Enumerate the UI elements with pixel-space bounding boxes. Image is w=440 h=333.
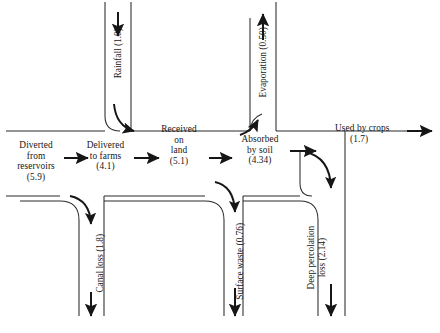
- canal-loss-outer-wall: [20, 201, 79, 316]
- node-label-absorbed-by-soil: Absorbed by soil (4.34): [232, 134, 288, 166]
- node-label-deep-percolation-loss: Deep percolation loss (2.14): [306, 202, 327, 314]
- absorbed-to-percolation-wall: [300, 150, 312, 196]
- canal-loss-join-arrow: [70, 196, 91, 224]
- deep-percolation-join-arrow: [305, 152, 331, 188]
- node-label-evaporation: Evaporation (0.50): [258, 7, 269, 117]
- node-label-received-on-land: Received on land (5.1): [152, 124, 206, 166]
- node-label-used-by-crops: Used by crops: [335, 123, 407, 134]
- surface-waste-outer-wall: [104, 201, 224, 316]
- node-label-rainfall: Rainfall (1.0): [113, 11, 124, 95]
- surface-waste-join-arrow: [215, 182, 235, 212]
- node-label-canal-loss: Canal loss (1.8): [95, 216, 106, 311]
- node-label-used-by-crops-value: (1.7): [350, 134, 390, 145]
- evaporation-join-arrow: [240, 120, 258, 135]
- node-label-surface-waste: Surface waste (0.76): [235, 198, 246, 324]
- node-label-delivered-to-farms: Delivered to farms (4.1): [78, 140, 133, 172]
- node-label-diverted-from-reservoirs: Diverted from reservoirs (5.9): [5, 140, 67, 182]
- diagram-canvas: Diverted from reservoirs (5.9) Delivered…: [0, 0, 440, 333]
